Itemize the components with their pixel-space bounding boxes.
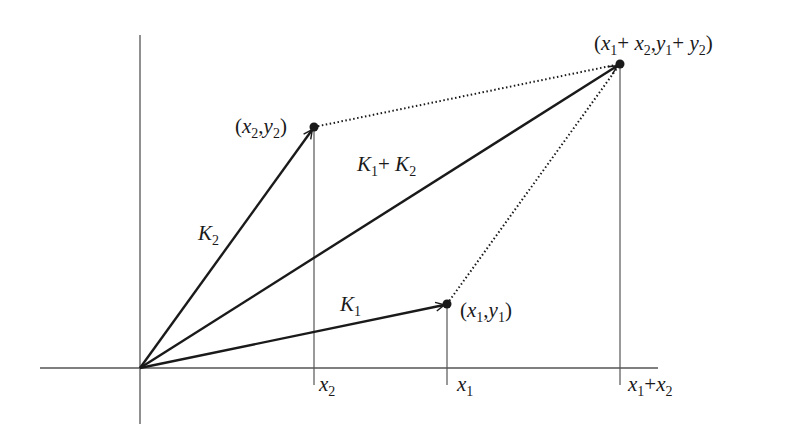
tick-label-x2: x2 [318, 372, 335, 399]
dotted-edge-p2-to-sum [314, 64, 620, 127]
label-point-sum: (x1+ x2,y1+ y2) [594, 31, 713, 58]
dotted-edge-p1-to-sum [447, 64, 620, 304]
label-point-x2-y2: (x2,y2) [235, 114, 287, 141]
tick-label-x1-plus-x2: x1+x2 [627, 372, 673, 399]
vector-k1 [140, 305, 444, 368]
label-vector-k1: K1 [339, 292, 361, 319]
tick-label-x1: x1 [456, 372, 473, 399]
label-point-x1-y1: (x1,y1) [460, 298, 512, 325]
vector-addition-diagram: (x2,y2) (x1,y1) (x1+ x2,y1+ y2) K2 K1 K1… [0, 0, 789, 438]
vector-k1-plus-k2 [140, 66, 617, 368]
label-vector-k1-plus-k2: K1+ K2 [356, 152, 416, 179]
vector-k2 [140, 130, 312, 368]
label-vector-k2: K2 [197, 221, 219, 248]
point-sum [616, 60, 625, 69]
point-x2-y2 [310, 123, 319, 132]
point-x1-y1 [443, 300, 452, 309]
